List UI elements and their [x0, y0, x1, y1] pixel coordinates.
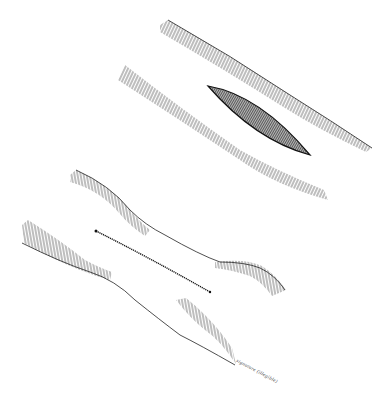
- lower-vessel: [22, 170, 286, 365]
- drawing: [0, 0, 388, 399]
- upper-vessel: [118, 20, 372, 200]
- illustration: signature (illegible): [0, 0, 388, 399]
